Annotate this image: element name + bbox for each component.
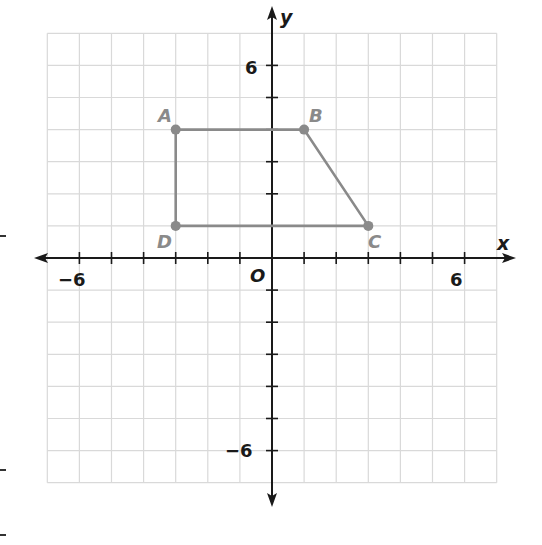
vertex-label-a: A [156, 105, 172, 126]
vertex-point-d [171, 221, 181, 231]
vertex-point-a [171, 125, 181, 135]
y-tick-label-neg6: −6 [225, 440, 253, 461]
vertex-point-c [363, 221, 373, 231]
y-axis-label: y [280, 6, 294, 28]
axes [34, 6, 516, 507]
vertex-label-b: B [309, 105, 323, 126]
vertex-point-b [299, 125, 309, 135]
x-tick-label-neg6: −6 [58, 269, 86, 290]
x-tick-label-6: 6 [450, 269, 463, 290]
margin-marks [0, 236, 6, 535]
vertex-label-c: C [368, 231, 382, 252]
y-tick-label-6: 6 [245, 57, 258, 78]
vertex-label-d: D [157, 231, 172, 252]
origin-label: O [250, 265, 265, 286]
labels: x y O −6 6 6 −6 A B C D [58, 6, 510, 461]
coordinate-plane: x y O −6 6 6 −6 A B C D [0, 0, 542, 545]
x-axis-label: x [496, 232, 510, 254]
